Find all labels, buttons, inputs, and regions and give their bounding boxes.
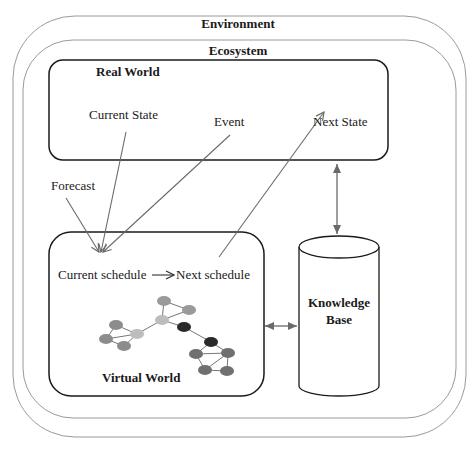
network-graph — [99, 296, 235, 376]
current-schedule-label: Current schedule — [58, 267, 146, 282]
forecast-label: Forecast — [51, 178, 95, 193]
real-world-title: Real World — [96, 64, 160, 79]
environment-boundary — [13, 16, 466, 437]
ecosystem-label: Ecosystem — [0, 43, 476, 58]
event-label: Event — [214, 114, 244, 129]
environment-label: Environment — [0, 16, 476, 31]
current-state-label: Current State — [89, 107, 158, 122]
knowledge-base-label-line1: Knowledge — [299, 295, 379, 310]
forecast-arrow — [66, 198, 99, 252]
next-state-label: Next State — [313, 114, 368, 129]
knowledge-base-label-line2: Base — [299, 312, 379, 327]
next-schedule-label: Next schedule — [176, 267, 250, 282]
virtual-world-title: Virtual World — [102, 370, 180, 385]
next-schedule-to-next-state-arrow — [219, 112, 324, 257]
diagram-canvas — [0, 0, 476, 450]
